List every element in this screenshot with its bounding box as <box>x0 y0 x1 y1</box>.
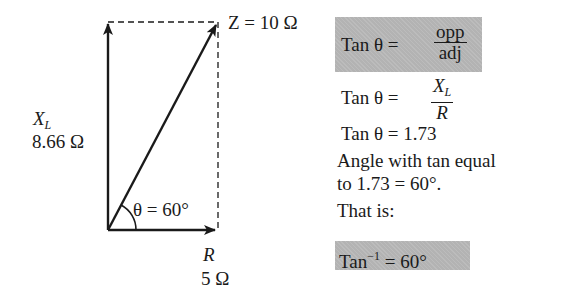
resistance-value-label: 5 Ω <box>201 268 229 290</box>
inverse-superscript: −1 <box>367 249 380 263</box>
xl-subscript: L <box>445 85 452 99</box>
r-denominator: R <box>431 103 453 123</box>
tan-xl-over-r-prefix: Tan θ = <box>341 86 399 109</box>
tan-value-line: Tan θ = 1.73 <box>341 122 437 145</box>
xl-symbol: X <box>433 75 445 96</box>
xl-numerator: XL <box>431 76 453 103</box>
reactance-subscript: L <box>45 118 52 132</box>
inverse-tan-prefix: Tan <box>339 251 367 272</box>
fraction-numerator: opp <box>434 22 467 43</box>
angle-label: θ = 60° <box>133 199 189 221</box>
xl-over-r-fraction: XL R <box>431 76 453 123</box>
impedance-label: Z = 10 Ω <box>228 12 298 34</box>
explanation-line-2: to 1.73 = 60°. <box>337 172 441 195</box>
reactance-symbol: X <box>33 108 45 129</box>
highlight-box-tan-definition: Tan θ = opp adj <box>335 17 482 72</box>
fraction-denominator: adj <box>434 43 467 63</box>
resistance-symbol: R <box>203 244 215 266</box>
opp-over-adj-fraction: opp adj <box>434 22 467 63</box>
inverse-tan-result: Tan−1 = 60° <box>339 245 427 273</box>
inverse-tan-suffix: = 60° <box>380 251 427 272</box>
that-is-label: That is: <box>337 199 395 222</box>
tan-definition-prefix: Tan θ = <box>341 34 399 55</box>
highlight-box-inverse-tan: Tan−1 = 60° <box>335 241 470 270</box>
reactance-value-label: 8.66 Ω <box>32 131 84 153</box>
explanation-line-1: Angle with tan equal <box>337 149 496 172</box>
